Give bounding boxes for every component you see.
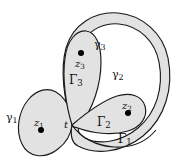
- label-gamma1-subscript: 1: [13, 116, 18, 125]
- label-z2: z2: [122, 101, 132, 112]
- contour-diagram: γ1 γ2 γ3 Γ1 Γ2 Γ3 z1 z2 z3 t: [0, 0, 179, 163]
- label-gamma2-subscript: 2: [119, 73, 124, 82]
- label-gamma1-symbol: γ: [6, 111, 13, 124]
- label-z2-subscript: 2: [127, 104, 132, 113]
- label-z1: z1: [34, 118, 44, 129]
- label-Gamma2-subscript: 2: [105, 120, 111, 130]
- label-t-symbol: t: [64, 119, 68, 130]
- label-gamma3-subscript: 3: [101, 43, 106, 52]
- label-gamma2-symbol: γ: [112, 68, 119, 81]
- label-z3: z3: [75, 59, 85, 70]
- label-z3-subscript: 3: [80, 62, 85, 71]
- label-gamma2: γ2: [112, 69, 124, 82]
- label-Gamma1: Γ1: [118, 133, 132, 147]
- label-gamma3: γ3: [94, 39, 106, 52]
- label-gamma1: γ1: [6, 112, 18, 125]
- diagram-canvas: [0, 0, 179, 163]
- label-Gamma2: Γ2: [97, 116, 111, 130]
- label-z1-subscript: 1: [39, 121, 44, 130]
- label-Gamma1-subscript: 1: [126, 137, 132, 147]
- label-t: t: [64, 120, 68, 130]
- label-Gamma3-subscript: 3: [77, 78, 83, 88]
- point-z3: [78, 50, 84, 56]
- label-gamma3-symbol: γ: [94, 38, 101, 51]
- label-Gamma3: Γ3: [69, 74, 83, 88]
